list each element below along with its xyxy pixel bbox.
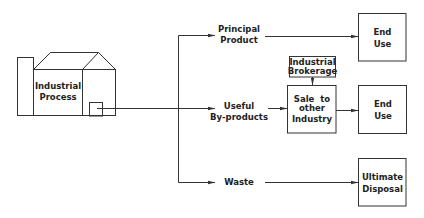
end-use-mid-line1: End	[374, 98, 392, 110]
principal-product-label: Principal Product	[214, 23, 264, 47]
end-use-mid-line2: Use	[374, 110, 392, 122]
industrial-process-line2: Process	[39, 92, 76, 103]
ultimate-disposal-box: Ultimate Disposal	[359, 159, 406, 206]
principal-line2: Product	[220, 35, 258, 46]
end-use-mid-box: End Use	[359, 86, 407, 134]
end-use-top-line1: End	[374, 26, 392, 38]
industrial-process-label: Industrial Process	[34, 80, 82, 104]
industrial-flow-diagram: Industrial Process Principal Product Use…	[0, 0, 424, 218]
disposal-line2: Disposal	[362, 183, 403, 195]
useful-line1: Useful	[224, 101, 254, 112]
end-use-top-line2: Use	[374, 38, 392, 50]
waste-text: Waste	[224, 177, 254, 188]
sale-line3: Industry	[292, 115, 332, 124]
disposal-line1: Ultimate	[362, 171, 403, 183]
waste-label: Waste	[218, 176, 260, 188]
useful-line2: By-products	[210, 112, 268, 123]
industrial-process-line1: Industrial	[35, 81, 81, 92]
sale-to-other-industry-box: Sale to other Industry	[288, 86, 336, 132]
principal-line1: Principal	[218, 24, 260, 35]
sale-line2: other	[299, 104, 325, 113]
useful-byproducts-label: Useful By-products	[210, 100, 268, 124]
end-use-top-box: End Use	[359, 14, 406, 61]
brokerage-line2: Brokerage	[288, 67, 337, 77]
industrial-brokerage-box: Industrial Brokerage	[290, 57, 335, 77]
